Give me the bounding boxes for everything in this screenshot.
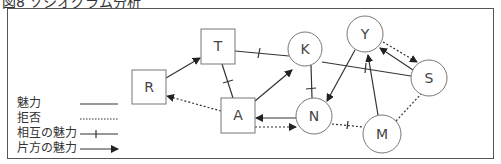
node-s-label: S bbox=[425, 70, 434, 86]
legend-item-attraction: 魅力 bbox=[17, 96, 77, 111]
node-y-label: Y bbox=[360, 26, 370, 42]
node-t-label: T bbox=[213, 38, 223, 54]
edge-r-t bbox=[166, 58, 200, 78]
edge-y-n bbox=[327, 50, 355, 101]
node-a-label: A bbox=[233, 107, 243, 123]
edge-m-s bbox=[396, 94, 421, 121]
legend-item-mutual-attraction: 相互の魅力 bbox=[17, 126, 77, 141]
edge-a-r bbox=[167, 96, 221, 111]
legend-item-rejection: 拒否 bbox=[17, 111, 77, 126]
edge-m-y bbox=[368, 55, 378, 115]
edge-k-n bbox=[311, 65, 312, 98]
legend-samples bbox=[80, 104, 118, 149]
edge-y-s bbox=[383, 42, 417, 62]
edge-k-s bbox=[322, 62, 411, 76]
node-r-label: R bbox=[144, 79, 154, 95]
tick-k-n bbox=[306, 88, 316, 89]
edge-s-y bbox=[380, 48, 413, 70]
edge-t-k bbox=[235, 51, 289, 56]
node-m-label: M bbox=[376, 126, 388, 142]
node-n-label: N bbox=[309, 108, 319, 124]
edge-a-k bbox=[255, 70, 292, 101]
tick-n-m bbox=[347, 121, 348, 129]
tick-k-s bbox=[365, 63, 366, 73]
legend-item-one-way-attraction: 片方の魅力 bbox=[17, 141, 77, 156]
legend: 魅力 拒否 相互の魅力 片方の魅力 bbox=[17, 96, 77, 156]
node-k-label: K bbox=[300, 41, 310, 57]
